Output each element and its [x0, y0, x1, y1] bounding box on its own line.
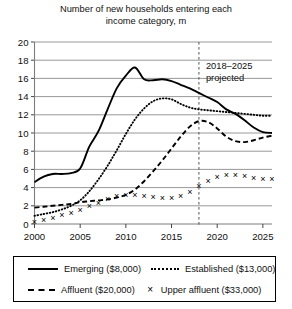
y-axis-tick-label: 20 [18, 37, 29, 48]
legend-label-established: Established ($13,000) [185, 264, 275, 274]
data-point-marker: × [169, 193, 174, 203]
legend-label-affluent: Affluent ($20,000) [61, 285, 135, 295]
data-point-marker: × [132, 190, 137, 200]
legend-marker-cross-icon: × [144, 285, 157, 295]
legend-item-affluent: Affluent ($20,000) [28, 285, 135, 295]
legend-row-1: Emerging ($8,000) Established ($13,000) [14, 259, 277, 279]
y-axis-tick-label: 0 [23, 219, 28, 230]
y-axis-tick-label: 6 [23, 164, 28, 175]
data-point-marker: × [32, 217, 37, 227]
series-upper-affluent-markers: ××××××××××××××××××××××××××× [32, 170, 275, 226]
chart-legend: Emerging ($8,000) Established ($13,000) … [13, 256, 276, 302]
x-axis-tick-label: 2020 [207, 231, 228, 242]
data-point-marker: × [178, 191, 183, 201]
projection-annotation-line-1: 2018–2025 [206, 61, 253, 71]
data-point-marker: × [196, 181, 201, 191]
legend-label-emerging: Emerging ($8,000) [64, 264, 141, 274]
data-point-marker: × [87, 201, 92, 211]
y-axis-tick-label: 16 [18, 73, 29, 84]
legend-marker-dashed-icon [28, 289, 55, 291]
data-point-marker: × [215, 172, 220, 182]
legend-label-upper-affluent: Upper affluent ($33,000) [161, 285, 262, 295]
data-point-marker: × [187, 187, 192, 197]
x-axis-tick-label: 2025 [252, 231, 273, 242]
data-point-marker: × [78, 205, 83, 215]
data-point-marker: × [96, 198, 101, 208]
data-point-marker: × [68, 208, 73, 218]
data-point-marker: × [151, 192, 156, 202]
x-axis-tick-label: 2010 [115, 231, 136, 242]
x-axis-tick-label: 2000 [24, 231, 45, 242]
y-axis-tick-label: 18 [18, 55, 29, 66]
data-point-marker: × [41, 215, 46, 225]
data-point-marker: × [224, 170, 229, 180]
legend-marker-solid-icon [28, 268, 58, 270]
legend-item-established: Established ($13,000) [151, 264, 275, 274]
data-point-marker: × [141, 191, 146, 201]
legend-marker-dotted-icon [151, 268, 179, 270]
data-point-marker: × [114, 191, 119, 201]
plot-area: 0246810121416182020002005201020152020202… [0, 0, 292, 250]
y-axis-tick-label: 4 [23, 182, 29, 193]
y-axis-tick-label: 2 [23, 200, 28, 211]
data-point-marker: × [242, 171, 247, 181]
data-point-marker: × [50, 213, 55, 223]
x-axis-tick-label: 2005 [70, 231, 91, 242]
legend-item-upper-affluent: × Upper affluent ($33,000) [144, 285, 262, 295]
chart-container: Number of new households entering each i… [0, 0, 292, 309]
legend-item-emerging: Emerging ($8,000) [28, 264, 141, 274]
data-point-marker: × [269, 174, 274, 184]
series-emerging [35, 67, 273, 182]
y-axis-tick-label: 14 [18, 91, 29, 102]
y-axis-tick-label: 8 [23, 146, 28, 157]
y-axis-tick-label: 12 [18, 109, 29, 120]
data-point-marker: × [105, 194, 110, 204]
projection-annotation-line-2: projected [206, 73, 244, 83]
data-point-marker: × [260, 174, 265, 184]
data-point-marker: × [59, 210, 64, 220]
data-point-marker: × [205, 176, 210, 186]
data-point-marker: × [123, 190, 128, 200]
y-axis-tick-label: 10 [18, 128, 29, 139]
data-point-marker: × [160, 193, 165, 203]
data-point-marker: × [233, 170, 238, 180]
legend-row-2: Affluent ($20,000) × Upper affluent ($33… [14, 280, 277, 300]
x-axis-tick-label: 2015 [161, 231, 182, 242]
data-point-marker: × [251, 173, 256, 183]
